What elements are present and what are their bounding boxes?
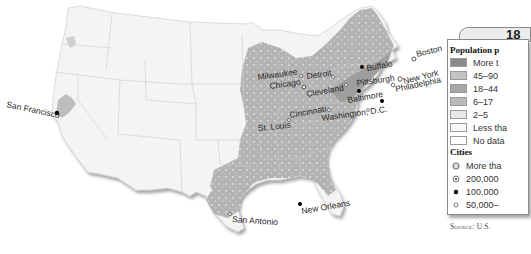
legend-density-row: No data (450, 135, 505, 146)
legend-density-label: No data (473, 136, 505, 146)
legend-density-row: Less tha (450, 122, 507, 133)
legend-density-label: 45–90 (473, 71, 498, 81)
city-open-circle-icon (452, 201, 460, 209)
legend-density-label: 2–5 (473, 110, 488, 120)
legend-density-row: More t (450, 57, 499, 68)
legend-city-row: 100,000 (450, 186, 499, 197)
legend-city-row: 200,000 (450, 173, 499, 184)
legend-density-row: 2–5 (450, 109, 488, 120)
legend-city-label: More tha (466, 161, 502, 171)
city-ring-large-icon (452, 162, 460, 170)
legend-density-label: 18–44 (473, 84, 498, 94)
legend-city-label: 200,000 (466, 174, 499, 184)
legend-density-row: 18–44 (450, 83, 498, 94)
legend-swatch (450, 58, 467, 67)
legend-density-row: 6–17 (450, 96, 493, 107)
city-dotted-circle-icon (452, 175, 460, 183)
city-marker-san-antonio (229, 213, 232, 216)
legend-swatch (450, 84, 467, 93)
legend-population-heading: Population p (450, 45, 499, 55)
legend-city-label: 100,000 (466, 187, 499, 197)
legend-city-row: 50,000– (450, 199, 499, 210)
legend-swatch (450, 123, 467, 132)
city-marker-cleveland (345, 84, 348, 87)
legend-swatch (450, 136, 467, 145)
legend-swatch (450, 71, 467, 80)
city-marker-milwaukee (300, 75, 303, 78)
legend-swatch (450, 97, 467, 106)
city-filled-dot-icon (452, 188, 460, 196)
legend-density-label: Less tha (473, 123, 507, 133)
city-label-boston: Boston (415, 43, 443, 59)
legend-swatch (450, 110, 467, 119)
city-marker-buffalo (360, 65, 364, 69)
legend-density-row: 45–90 (450, 70, 498, 81)
legend-city-row: More tha (450, 160, 502, 171)
city-marker-boston (412, 57, 416, 61)
city-marker-baltimore (380, 99, 384, 103)
legend-density-label: 6–17 (473, 97, 493, 107)
us-population-density-map: San Francisco Milwaukee Detroit Chicago … (0, 0, 445, 254)
legend-city-label: 50,000– (466, 200, 499, 210)
legend-cities-heading: Cities (450, 147, 472, 157)
legend-density-label: More t (473, 58, 499, 68)
legend-source: Source: U.S. (450, 222, 491, 231)
